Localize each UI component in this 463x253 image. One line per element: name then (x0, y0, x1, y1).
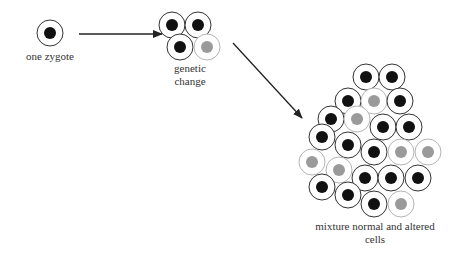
normal-nucleus (192, 19, 204, 31)
altered-nucleus (201, 41, 213, 53)
normal-cell (309, 124, 335, 150)
normal-nucleus (316, 181, 328, 193)
normal-nucleus (385, 172, 397, 184)
normal-cell (309, 174, 335, 200)
normal-cell (353, 64, 379, 90)
altered-nucleus (395, 198, 407, 210)
label-one-zygote: one zygote (26, 50, 74, 62)
normal-cell (361, 139, 387, 165)
label-mixture: mixture normal and altered (315, 220, 435, 232)
normal-nucleus (360, 71, 372, 83)
stage-genetic-change (159, 12, 220, 60)
normal-nucleus (174, 41, 186, 53)
normal-cell (378, 165, 404, 191)
normal-nucleus (403, 121, 415, 133)
normal-nucleus (342, 95, 354, 107)
normal-nucleus (359, 172, 371, 184)
normal-cell (37, 20, 63, 46)
normal-cell (370, 114, 396, 140)
normal-nucleus (44, 27, 56, 39)
altered-nucleus (333, 164, 345, 176)
normal-nucleus (394, 95, 406, 107)
cell-division-diagram: one zygote genetic change mixture normal… (0, 0, 463, 253)
altered-cell (415, 139, 441, 165)
normal-cell (167, 34, 193, 60)
normal-nucleus (342, 139, 354, 151)
altered-cell (299, 149, 325, 175)
normal-nucleus (368, 146, 380, 158)
normal-nucleus (386, 71, 398, 83)
normal-nucleus (342, 189, 354, 201)
altered-nucleus (368, 95, 380, 107)
normal-cell (379, 64, 405, 90)
stage-zygote (37, 20, 63, 46)
altered-cell (388, 139, 414, 165)
normal-cell (335, 182, 361, 208)
normal-nucleus (316, 131, 328, 143)
normal-cell (387, 88, 413, 114)
normal-nucleus (412, 172, 424, 184)
normal-nucleus (368, 198, 380, 210)
normal-cell (396, 114, 422, 140)
normal-nucleus (166, 19, 178, 31)
label-cells: cells (365, 233, 385, 245)
altered-nucleus (306, 156, 318, 168)
arrow-genetic-change-to-mixture (233, 43, 302, 118)
altered-nucleus (395, 146, 407, 158)
normal-cell (361, 191, 387, 217)
normal-cell (405, 165, 431, 191)
stage-mixture (299, 64, 441, 217)
normal-nucleus (377, 121, 389, 133)
altered-cell (344, 106, 370, 132)
label-change: change (174, 75, 205, 87)
altered-nucleus (351, 113, 363, 125)
label-genetic: genetic (174, 62, 206, 74)
normal-nucleus (325, 113, 337, 125)
altered-cell (388, 191, 414, 217)
altered-cell (194, 34, 220, 60)
altered-nucleus (422, 146, 434, 158)
normal-cell (335, 132, 361, 158)
